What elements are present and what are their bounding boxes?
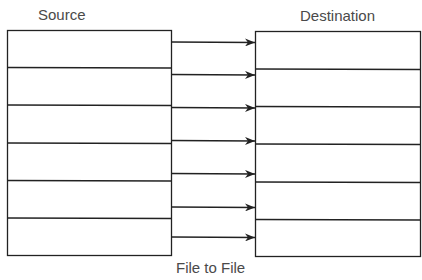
arrow-right-icon — [172, 237, 256, 238]
source-row-divider — [8, 68, 172, 69]
destination-row-divider — [256, 107, 421, 108]
arrow-right-icon — [172, 207, 256, 208]
destination-row-divider — [256, 182, 421, 183]
file-to-file-diagram — [0, 0, 422, 280]
source-row-divider — [8, 105, 172, 106]
arrow-right-icon — [172, 174, 256, 175]
destination-row-divider — [256, 144, 421, 145]
arrow-right-icon — [172, 141, 256, 142]
destination-table — [256, 32, 421, 257]
source-table — [8, 31, 172, 256]
source-row-divider — [8, 143, 172, 144]
destination-row-divider — [256, 69, 421, 70]
source-row-divider — [8, 181, 172, 182]
destination-row-divider — [256, 220, 421, 221]
transfer-arrows — [172, 42, 256, 238]
diagram-caption: File to File — [176, 259, 245, 276]
arrow-right-icon — [172, 42, 256, 43]
source-row-divider — [8, 218, 172, 219]
arrow-right-icon — [172, 108, 256, 109]
arrow-right-icon — [172, 75, 256, 76]
